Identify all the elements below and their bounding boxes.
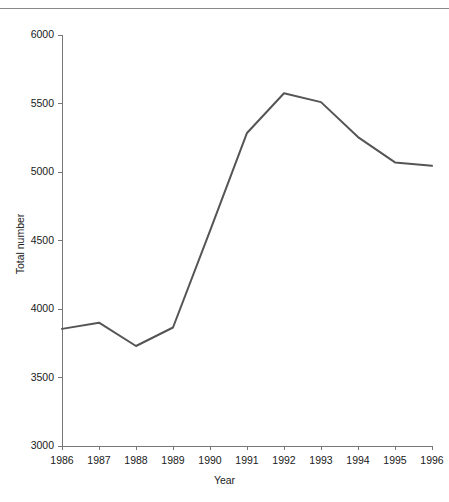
figure-page: 3000350040004500500055006000 19861987198… [0, 0, 449, 502]
x-tick-label: 1986 [42, 455, 82, 466]
x-tick-label: 1991 [227, 455, 267, 466]
y-tick-label: 5000 [10, 166, 54, 177]
y-tick-label: 5500 [10, 98, 54, 109]
x-tick-label: 1994 [338, 455, 378, 466]
x-tick-label: 1992 [264, 455, 304, 466]
x-axis-title: Year [0, 474, 449, 486]
y-tick-label: 6000 [10, 29, 54, 40]
tick-marks [58, 35, 432, 450]
y-tick-label: 3000 [10, 440, 54, 451]
x-tick-label: 1996 [412, 455, 449, 466]
x-tick-label: 1989 [153, 455, 193, 466]
y-tick-label: 4000 [10, 303, 54, 314]
x-tick-label: 1987 [79, 455, 119, 466]
x-tick-label: 1990 [190, 455, 230, 466]
chart-canvas [0, 0, 449, 502]
series-line-total-number [62, 93, 432, 346]
x-tick-label: 1993 [301, 455, 341, 466]
x-tick-label: 1995 [375, 455, 415, 466]
line-chart: 3000350040004500500055006000 19861987198… [0, 0, 449, 502]
y-tick-label: 3500 [10, 372, 54, 383]
y-axis-title: Total number [14, 184, 26, 304]
x-tick-label: 1988 [116, 455, 156, 466]
axes [62, 35, 432, 446]
